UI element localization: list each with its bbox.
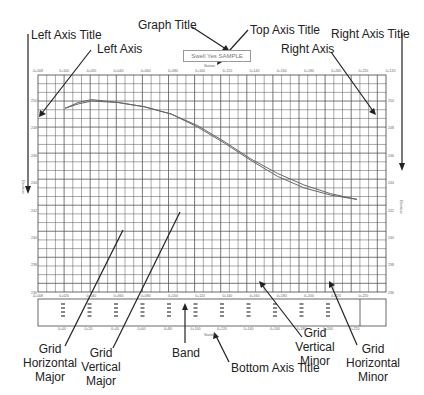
band-markers xyxy=(61,303,330,317)
band-marker xyxy=(114,315,118,317)
band-label: 0+120 xyxy=(217,327,227,331)
right-tick-label: 246 xyxy=(388,154,394,158)
band-marker xyxy=(88,307,92,309)
band-marker xyxy=(247,307,251,309)
bottom-tick-label: 0+180 xyxy=(277,294,287,298)
left-tick-label: 236 xyxy=(31,291,37,295)
band-label: 0+60 xyxy=(138,327,146,331)
band-label: 0+20 xyxy=(85,327,93,331)
right-tick-label: 248 xyxy=(388,126,394,130)
left-tick-label: 238 xyxy=(31,263,37,267)
annotation-grid-vertical-major: Grid Vertical Major xyxy=(76,346,126,388)
band-arrowhead xyxy=(182,303,188,310)
band-marker xyxy=(88,311,92,313)
band-marker xyxy=(61,303,65,305)
top-axis-title: Station xyxy=(204,64,215,68)
band-label: 0+160 xyxy=(270,327,280,331)
annotation-left-axis-title: Left Axis Title xyxy=(31,28,102,42)
band-marker xyxy=(114,303,118,305)
right-axis-title-arrowhead xyxy=(399,163,405,171)
annotation-band: Band xyxy=(172,346,200,360)
plot-grid xyxy=(38,75,386,292)
graph-title-box: Swell Yes SAMPLE xyxy=(183,50,251,62)
top-tick-label: 0+020 xyxy=(86,69,96,73)
bottom-tick-label: 0+220 xyxy=(358,294,368,298)
band-marker xyxy=(247,303,251,305)
profile-line-1 xyxy=(65,100,357,200)
right-tick-label: 236 xyxy=(388,291,394,295)
right-tick-label: 250 xyxy=(388,99,394,103)
band-label: 0+220 xyxy=(350,327,360,331)
right-axis-arrowhead xyxy=(369,108,376,115)
band-marker xyxy=(247,315,251,317)
band-marker xyxy=(300,303,304,305)
top-tick-label: 0+160 xyxy=(277,69,287,73)
band-marker xyxy=(141,315,145,317)
right-tick-label: 240 xyxy=(388,236,394,240)
band-marker xyxy=(273,315,277,317)
band-marker xyxy=(326,315,330,317)
bottom-axis-title-leader xyxy=(216,336,229,362)
band-label: 0+100 xyxy=(191,327,201,331)
band-marker xyxy=(300,311,304,313)
annotation-graph-title: Graph Title xyxy=(138,18,197,32)
left-tick-label: 248 xyxy=(31,126,37,130)
annotation-right-axis-title: Right Axis Title xyxy=(331,27,410,41)
right-axis-leader xyxy=(331,52,373,111)
bottom-tick-label: 0+120 xyxy=(195,294,205,298)
top-tick-label: -0+008 xyxy=(32,69,43,73)
bottom-tick-label: 0+060 xyxy=(114,294,124,298)
band-marker xyxy=(167,307,171,309)
band-marker xyxy=(88,303,92,305)
annotation-left-axis: Left Axis xyxy=(97,42,142,56)
band-marker xyxy=(141,311,145,313)
top-tick-label: 0+040 xyxy=(114,69,124,73)
annotation-grid-vertical-minor: Grid Vertical Minor xyxy=(290,326,340,368)
band-marker xyxy=(326,303,330,305)
top-tick-label: 0+180 xyxy=(304,69,314,73)
bottom-axis-title: Station xyxy=(204,333,215,337)
right-tick-label: 238 xyxy=(388,263,394,267)
top-tick-label: 0+140 xyxy=(250,69,260,73)
left-tick-label: 240 xyxy=(31,236,37,240)
band-marker xyxy=(300,315,304,317)
band-marker xyxy=(61,315,65,317)
band-marker xyxy=(141,303,145,305)
left-tick-label: 246 xyxy=(31,154,37,158)
band-marker xyxy=(220,307,224,309)
band-marker xyxy=(273,311,277,313)
top-tick-label: 0+120 xyxy=(386,69,396,73)
band-marker xyxy=(194,307,198,309)
band-marker xyxy=(61,311,65,313)
profile-curves xyxy=(65,100,357,200)
band-marker xyxy=(167,311,171,313)
left-axis-arrowhead xyxy=(39,110,46,117)
band-marker xyxy=(114,307,118,309)
top-tick-label: 0+200 xyxy=(331,69,341,73)
left-tick-label: 250 xyxy=(31,99,37,103)
annotation-top-axis-title: Top Axis Title xyxy=(250,23,320,37)
bottom-tick-label: 0+220 xyxy=(331,294,341,298)
band-marker xyxy=(167,315,171,317)
left-tick-label: 244 xyxy=(31,181,37,185)
left-tick-label: 242 xyxy=(31,209,37,213)
right-axis-title: Elevation xyxy=(399,200,403,214)
top-tick-label: 0+120 xyxy=(222,69,232,73)
top-tick-label: 0+220 xyxy=(358,69,368,73)
bottom-tick-label: 0+080 xyxy=(141,294,151,298)
right-tick-label: 244 xyxy=(388,181,394,185)
band-marker xyxy=(88,315,92,317)
band-marker xyxy=(326,311,330,313)
band-marker xyxy=(194,303,198,305)
left-axis-title: Elevation xyxy=(21,180,25,194)
band-marker xyxy=(141,307,145,309)
band-label: 0+80 xyxy=(164,327,172,331)
band-marker xyxy=(114,311,118,313)
bottom-tick-label: 0+040 xyxy=(86,294,96,298)
band-label: 0+00 xyxy=(58,327,66,331)
top-tick-label: 0+100 xyxy=(195,69,205,73)
graph-title-leader xyxy=(192,27,226,49)
top-tick-label: 0+100 xyxy=(59,69,69,73)
top-tick-label: 0+080 xyxy=(168,69,178,73)
band-marker xyxy=(61,307,65,309)
